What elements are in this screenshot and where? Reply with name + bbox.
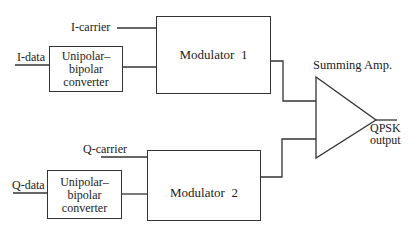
converter-q-line3: converter — [60, 202, 109, 215]
summing-amp-symbol — [316, 77, 376, 158]
modulator-2-block: Modulator 2 — [147, 150, 261, 221]
i-carrier-label: I-carrier — [71, 20, 110, 34]
modulator-1-label: Modulator 1 — [180, 47, 248, 63]
converter-i-line3: converter — [62, 76, 111, 89]
converter-i-block: Unipolar– bipolar converter — [49, 46, 123, 92]
modulator-2-label: Modulator 2 — [170, 185, 238, 201]
modulator-1-block: Modulator 1 — [156, 16, 271, 94]
q-carrier-label: Q-carrier — [83, 142, 127, 156]
q-data-label: Q-data — [12, 178, 45, 192]
converter-q-block: Unipolar– bipolar converter — [47, 170, 122, 219]
qpsk-output-label: QPSK output — [370, 122, 401, 146]
mod1-to-sum-line — [270, 61, 316, 101]
converter-q-line1: Unipolar– — [60, 176, 109, 189]
output-line2: output — [370, 134, 401, 146]
converter-q-line2: bipolar — [60, 189, 109, 202]
summing-amp-label: Summing Amp. — [313, 58, 392, 72]
i-data-label: I-data — [17, 50, 45, 64]
mod2-to-sum-line — [260, 139, 316, 177]
